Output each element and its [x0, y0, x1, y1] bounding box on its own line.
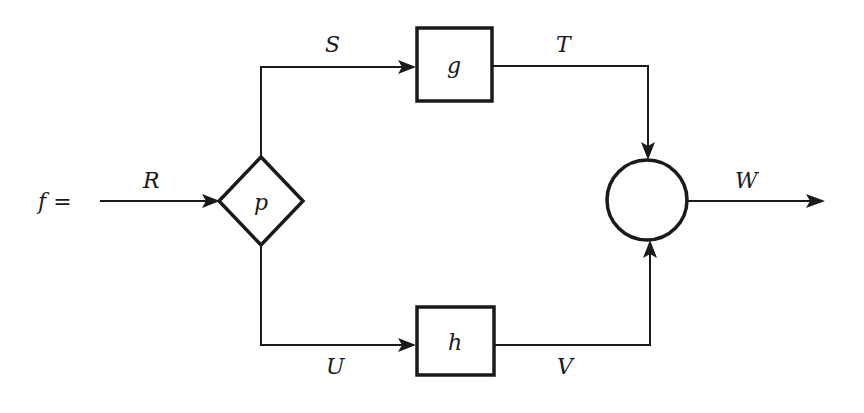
- edge-label-s: S: [325, 32, 340, 57]
- edge-v: V: [494, 240, 657, 379]
- edge-label-t: T: [556, 32, 573, 57]
- edge-label-v: V: [557, 354, 575, 379]
- node-label-p: p: [254, 190, 268, 215]
- edge-label-u: U: [326, 354, 346, 379]
- node-label-h: h: [448, 330, 462, 355]
- node-p: p: [219, 157, 303, 245]
- summing-junction-circle: [607, 160, 687, 240]
- block-diagram: f = R S U T V W p g: [0, 0, 864, 413]
- edge-label-w: W: [735, 168, 760, 193]
- edge-s: S: [261, 32, 416, 157]
- edge-w: W: [688, 168, 825, 208]
- edge-u: U: [261, 245, 416, 379]
- node-g: g: [417, 28, 492, 101]
- edge-t: T: [492, 32, 655, 160]
- edge-r: R: [100, 168, 220, 208]
- input-label: f =: [36, 189, 72, 214]
- node-label-g: g: [447, 53, 461, 78]
- edge-label-r: R: [142, 168, 160, 193]
- node-h: h: [417, 307, 494, 375]
- node-sum: [607, 160, 687, 240]
